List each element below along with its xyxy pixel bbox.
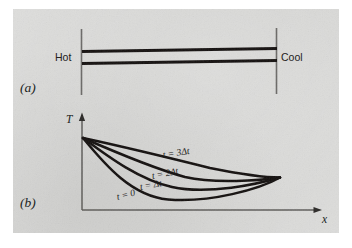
- hot-end-label: Hot: [55, 52, 71, 63]
- t-axis-arrowhead: [79, 113, 85, 122]
- panel-a-tag: (a): [20, 81, 36, 95]
- cool-end-label: Cool: [281, 52, 303, 63]
- figure-container: (a) (b) Hot Cool T x t = 3Δt t = 2Δt t =…: [0, 0, 352, 248]
- x-axis-arrowhead: [314, 207, 323, 213]
- x-axis-label: x: [322, 214, 327, 226]
- rod-top-edge: [82, 49, 277, 52]
- rod-bottom-edge: [82, 61, 277, 64]
- t-axis-label: T: [66, 114, 72, 126]
- panel-a-diagram: [82, 28, 278, 95]
- panel-b-tag: (b): [20, 196, 36, 210]
- figure-vector-layer: [0, 0, 352, 248]
